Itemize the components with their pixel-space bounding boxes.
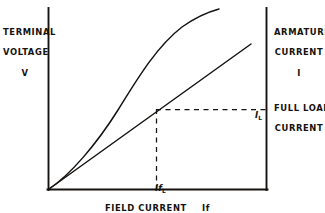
saturation-curve	[49, 9, 219, 189]
x-axis-label-text: FIELD CURRENT	[105, 203, 187, 213]
right-axis-label-line1: ARMATURE	[274, 20, 324, 40]
right-axis-label-line2: CURRENT	[274, 40, 324, 60]
full-load-label-line1: FULL LOAD	[274, 96, 324, 116]
field-current-full-load-marker: IfL	[155, 176, 166, 195]
y-axis-label-line2: VOLTAGE	[3, 40, 47, 60]
x-axis-symbol: If	[202, 203, 210, 213]
right-axis-label: ARMATURE CURRENT I	[274, 20, 324, 81]
full-load-current-label: FULL LOAD CURRENT	[274, 96, 324, 137]
y-axis-label: TERMINAL VOLTAGE V	[3, 20, 47, 81]
y-axis-label-line3: V	[3, 61, 47, 81]
right-axis-label-line3: I	[274, 61, 324, 81]
armature-current-line	[49, 44, 251, 189]
dc-generator-characteristic-figure: TERMINAL VOLTAGE V ARMATURE CURRENT I FU…	[0, 0, 325, 213]
y-axis-label-line1: TERMINAL	[3, 20, 47, 40]
full-load-label-line2: CURRENT	[274, 116, 324, 136]
x-axis-label: FIELD CURRENT If	[48, 196, 267, 213]
field-current-full-load-subscript: L	[162, 187, 166, 194]
full-load-current-subscript: L	[258, 114, 262, 121]
field-current-full-load-symbol: If	[155, 183, 162, 193]
full-load-current-marker: IL	[255, 103, 262, 122]
